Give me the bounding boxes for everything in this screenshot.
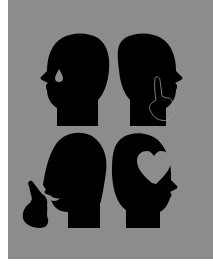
head-top-left <box>41 34 110 127</box>
head-bottom-left <box>23 133 107 228</box>
head-bottom-right <box>112 133 178 228</box>
illustration-panel <box>8 0 213 259</box>
pointing-hand-at-mouth-icon <box>23 181 48 228</box>
head-top-right <box>118 34 183 127</box>
